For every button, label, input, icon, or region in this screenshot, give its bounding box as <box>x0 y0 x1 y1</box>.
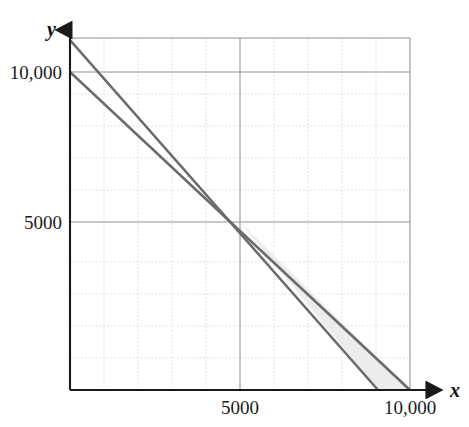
y-axis-label: y <box>45 18 56 41</box>
x-axis-label: x <box>449 379 460 401</box>
x-tick-label-5000: 5000 <box>221 397 259 418</box>
coordinate-plane: y x 10,000 5000 5000 10,000 <box>0 0 469 427</box>
x-tick-label-10000: 10,000 <box>384 397 436 418</box>
y-tick-label-10000: 10,000 <box>10 62 62 83</box>
y-tick-label-5000: 5000 <box>24 212 62 233</box>
graph-figure: y x 10,000 5000 5000 10,000 <box>0 0 469 427</box>
